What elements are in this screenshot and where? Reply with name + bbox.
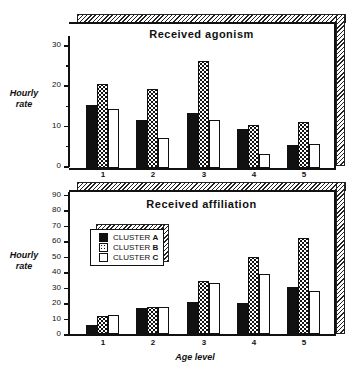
bar-cluster-c-age-1: [108, 315, 119, 334]
y-axis-title: Hourly rate: [6, 250, 42, 272]
y-tick: [64, 166, 69, 168]
bar-cluster-c-age-5: [309, 291, 320, 334]
bar-cluster-a-age-2: [136, 120, 147, 168]
y-tick-label: 70: [45, 221, 61, 230]
y-tick: [64, 319, 69, 321]
swatch-solid-icon: [99, 233, 108, 242]
y-tick-label: 0: [45, 329, 61, 338]
x-tick-label: 1: [93, 170, 113, 179]
bar-cluster-c-age-3: [209, 283, 220, 334]
swatch-dotted-icon: [99, 243, 108, 252]
agonism-panel: Received agonism 0102030 Hourly rate 123…: [0, 0, 361, 180]
bar-cluster-a-age-4: [237, 303, 248, 334]
y-tick: [64, 257, 69, 259]
bar-cluster-b-age-1: [97, 84, 108, 168]
y-tick-label: 20: [45, 298, 61, 307]
bar-cluster-b-age-4: [248, 125, 259, 168]
y-minor-tick: [66, 146, 69, 148]
x-tick-label: 4: [244, 170, 264, 179]
x-tick-label: 5: [294, 170, 314, 179]
y-axis-title: Hourly rate: [6, 88, 42, 110]
y-tick: [64, 272, 69, 274]
legend-item-c: CLUSTER C: [99, 253, 158, 262]
y-tick: [64, 85, 69, 87]
y-tick: [64, 226, 69, 228]
x-tick-label: 3: [194, 170, 214, 179]
bar-cluster-b-age-4: [248, 257, 259, 334]
bar-cluster-b-age-1: [97, 316, 108, 334]
y-tick: [64, 45, 69, 47]
y-tick: [64, 241, 69, 243]
bar-cluster-c-age-2: [158, 307, 169, 334]
bar-area: [69, 24, 334, 168]
bar-cluster-a-age-1: [86, 325, 97, 334]
y-tick: [64, 195, 69, 197]
y-tick: [64, 210, 69, 212]
y-tick-label: 90: [45, 190, 61, 199]
bar-cluster-a-age-5: [287, 287, 298, 334]
agonism-plot-frame: Received agonism: [69, 22, 336, 170]
legend: CLUSTER A CLUSTER B CLUSTER C: [90, 229, 164, 266]
bar-cluster-b-age-3: [198, 61, 209, 168]
y-tick-label: 60: [45, 236, 61, 245]
y-tick: [64, 126, 69, 128]
bar-cluster-c-age-4: [259, 274, 270, 334]
bar-cluster-c-age-2: [158, 138, 169, 168]
y-tick-label: 20: [45, 80, 61, 89]
y-tick-label: 10: [45, 314, 61, 323]
bar-cluster-c-age-3: [209, 120, 220, 168]
y-minor-tick: [66, 65, 69, 67]
bar-cluster-a-age-2: [136, 308, 147, 334]
panel-shadow-right: [336, 14, 345, 166]
x-tick-label: 1: [93, 338, 113, 347]
x-tick-label: 5: [294, 338, 314, 347]
bar-cluster-b-age-2: [147, 307, 158, 334]
y-tick-label: 0: [45, 161, 61, 170]
panel-shadow-right: [336, 182, 345, 334]
y-tick: [64, 334, 69, 336]
y-tick: [64, 303, 69, 305]
bar-cluster-b-age-5: [298, 122, 309, 168]
bar-cluster-a-age-1: [86, 105, 97, 168]
bar-cluster-a-age-3: [187, 113, 198, 168]
bar-cluster-a-age-3: [187, 302, 198, 334]
y-axis-line: [68, 192, 70, 334]
y-tick-label: 50: [45, 252, 61, 261]
bar-cluster-b-age-2: [147, 89, 158, 168]
x-tick-label: 4: [244, 338, 264, 347]
swatch-white-icon: [99, 253, 108, 262]
y-tick-label: 40: [45, 267, 61, 276]
x-tick-label: 3: [194, 338, 214, 347]
bar-cluster-b-age-3: [198, 281, 209, 334]
x-axis-title: Age level: [160, 352, 230, 363]
bar-cluster-a-age-4: [237, 129, 248, 168]
y-tick-label: 30: [45, 40, 61, 49]
y-tick-label: 10: [45, 121, 61, 130]
legend-item-a: CLUSTER A: [99, 233, 158, 242]
y-axis-line: [68, 36, 70, 167]
y-minor-tick: [66, 106, 69, 108]
y-tick-label: 30: [45, 283, 61, 292]
bar-cluster-b-age-5: [298, 238, 309, 334]
bar-cluster-c-age-1: [108, 109, 119, 168]
legend-item-b: CLUSTER B: [99, 243, 158, 252]
y-tick-label: 80: [45, 205, 61, 214]
x-tick-label: 2: [143, 338, 163, 347]
y-tick: [64, 288, 69, 290]
bar-cluster-a-age-5: [287, 145, 298, 168]
affiliation-panel: Received affiliation 0102030405060708090…: [0, 180, 361, 373]
x-tick-label: 2: [143, 170, 163, 179]
bar-cluster-c-age-5: [309, 144, 320, 168]
bar-cluster-c-age-4: [259, 154, 270, 169]
